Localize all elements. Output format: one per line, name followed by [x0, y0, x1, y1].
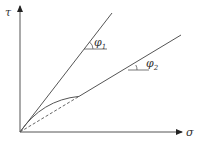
y-axis-label: τ [5, 6, 12, 19]
x-axis-label: σ [186, 126, 194, 139]
peak-envelope-line [20, 13, 112, 132]
diagram-canvas: τ σ φ1 φ2 [0, 0, 200, 148]
phi2-angle-arc [136, 65, 137, 70]
phi1-label: φ1 [94, 36, 106, 51]
linear-extrapolation-dashed [20, 96, 79, 132]
phi2-label: φ2 [146, 57, 159, 72]
phi1-angle-arc [90, 42, 94, 49]
